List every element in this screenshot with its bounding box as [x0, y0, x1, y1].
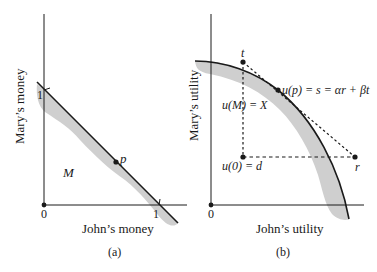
y-axis-label: Mary’s utility: [187, 70, 200, 141]
point-t: [240, 59, 245, 64]
region-m-label: M: [63, 166, 74, 179]
y-tick-label: 1: [37, 89, 43, 101]
point-r: [352, 154, 357, 159]
x-axis-label: John’s utility: [256, 222, 324, 235]
point-p-label: p: [120, 152, 127, 165]
up-label: u(p) = s = αr + βt: [282, 84, 369, 96]
point-up: [275, 87, 280, 92]
t-label: t: [241, 47, 244, 59]
origin-label: 0: [208, 208, 214, 220]
u0-label: u(0) = d: [222, 160, 262, 172]
y-axis-label: Mary’s money: [13, 69, 26, 144]
caption-b: (b): [276, 246, 290, 258]
panel-a: [37, 14, 187, 226]
origin-label: 0: [41, 208, 47, 220]
budget-line: [37, 82, 178, 223]
r-label: r: [355, 161, 360, 173]
panel-b: [195, 14, 364, 220]
caption-a: (a): [108, 246, 121, 258]
uM-label: u(M) = X: [222, 99, 267, 111]
point-p: [113, 159, 118, 164]
x-tick-label: 1: [153, 208, 159, 220]
x-axis-label: John’s money: [82, 222, 154, 235]
feasible-set-shading: [37, 84, 178, 226]
